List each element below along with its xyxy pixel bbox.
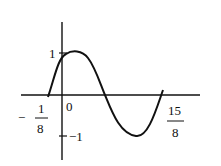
x-label-left-num: 1 [38,101,45,116]
sine-curve [48,51,163,136]
sine-graph: 1 −1 0 − 1 8 15 8 [0,0,221,166]
x-label-right-num: 15 [168,103,181,118]
origin-label: 0 [66,99,73,114]
y-label-1: 1 [49,46,56,61]
x-label-right-den: 8 [172,125,179,140]
x-label-left-sign: − [18,110,25,125]
y-label-neg1: −1 [69,129,83,144]
x-label-left-den: 8 [37,121,44,136]
